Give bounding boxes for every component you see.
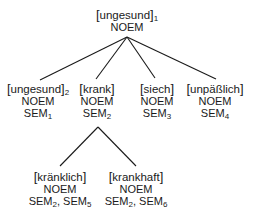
root-lexeme: [ungesund]1: [96, 9, 158, 21]
node-sem: SEM2, SEM6: [105, 195, 168, 207]
node-sem: SEM1: [7, 107, 69, 119]
node-ungesund2: [ungesund]2 NOEM SEM1: [7, 83, 69, 119]
node-word: krankhaft: [112, 171, 159, 183]
node-sem: SEM2: [79, 107, 114, 119]
node-krankhaft: [krankhaft] NOEM SEM2, SEM6: [105, 171, 168, 207]
root-index: 1: [154, 14, 158, 23]
close-bracket: ]: [111, 81, 115, 96]
node-feature: NOEM: [7, 95, 69, 107]
node-kraenklich: [kränklich] NOEM SEM2, SEM5: [29, 171, 92, 207]
edge-root-ungesund2: [40, 37, 127, 80]
close-bracket: ]: [83, 169, 87, 184]
node-sem: SEM3: [140, 107, 174, 119]
edge-krank-kraenklich: [60, 127, 98, 166]
edge-root-krank: [96, 37, 127, 79]
root-word: ungesund: [100, 9, 151, 21]
close-bracket: ]: [170, 81, 174, 96]
node-siech: [siech] NOEM SEM3: [140, 83, 174, 119]
root-feature: NOEM: [96, 21, 158, 33]
close-bracket: ]: [160, 169, 164, 184]
node-feature: NOEM: [105, 183, 168, 195]
edge-krank-krankhaft: [98, 127, 136, 166]
node-word: siech: [144, 83, 171, 95]
node-word: unpäßlich: [190, 83, 240, 95]
node-feature: NOEM: [79, 95, 114, 107]
node-feature: NOEM: [29, 183, 92, 195]
node-krank: [krank] NOEM SEM2: [79, 83, 114, 119]
node-word: krank: [83, 83, 111, 95]
close-bracket: ]: [240, 81, 244, 96]
node-index: 2: [65, 88, 69, 97]
node-feature: NOEM: [186, 95, 243, 107]
node-unpaesslich: [unpäßlich] NOEM SEM4: [186, 83, 243, 119]
node-word: ungesund: [11, 83, 62, 95]
node-feature: NOEM: [140, 95, 174, 107]
node-word: kränklich: [37, 171, 82, 183]
root-node: [ungesund]1 NOEM: [96, 9, 158, 33]
edge-root-unpaesslich: [127, 37, 216, 79]
node-sem: SEM4: [186, 107, 243, 119]
node-sem: SEM2, SEM5: [29, 195, 92, 207]
